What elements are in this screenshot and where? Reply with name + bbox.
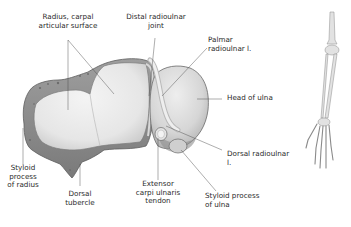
label-line: tubercle — [58, 199, 102, 208]
label-radius-carpal-articular-surface: Radius, carpal articular surface — [30, 13, 106, 30]
label-line: radioulnar l. — [208, 45, 251, 54]
label-line: of radius — [0, 181, 46, 190]
radius-bone — [23, 59, 155, 178]
label-dorsal-radioulnar-ligament: Dorsal radioulnar l. — [227, 150, 289, 167]
label-line: Dorsal radioulnar — [227, 150, 289, 159]
anatomy-diagram: Radius, carpal articular surface Distal … — [0, 0, 351, 227]
label-line: joint — [118, 22, 194, 31]
label-distal-radioulnar-joint: Distal radioulnar joint — [118, 13, 194, 30]
label-line: l. — [227, 159, 289, 168]
ulna-styloid — [169, 139, 187, 153]
label-line: tendon — [126, 197, 190, 206]
label-dorsal-tubercle: Dorsal tubercle — [58, 190, 102, 207]
upper-limb-inset — [306, 12, 339, 168]
label-extensor-carpi-ulnaris-tendon: Extensor carpi ulnaris tendon — [126, 180, 190, 206]
label-line: Head of ulna — [227, 94, 273, 103]
label-palmar-radioulnar-ligament: Palmar radioulnar l. — [208, 36, 251, 53]
ecu-tendon — [155, 128, 167, 141]
label-line: of ulna — [205, 201, 260, 210]
label-line: articular surface — [30, 22, 106, 31]
label-styloid-process-of-ulna: Styloid process of ulna — [205, 192, 260, 209]
label-styloid-process-of-radius: Styloid process of radius — [0, 164, 46, 190]
label-head-of-ulna: Head of ulna — [227, 94, 273, 103]
